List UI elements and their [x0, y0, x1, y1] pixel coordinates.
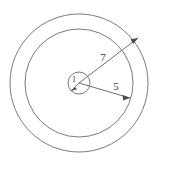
outer-radius-line: [79, 38, 138, 83]
middle-radius-label: 5: [113, 80, 119, 92]
inner-radius-label: 1: [72, 74, 77, 84]
concentric-circles-diagram: 7 5 1: [0, 0, 170, 169]
outer-radius-label: 7: [100, 51, 106, 63]
middle-radius-arrowhead: [123, 95, 130, 100]
figure-canvas: 7 5 1: [0, 0, 170, 169]
